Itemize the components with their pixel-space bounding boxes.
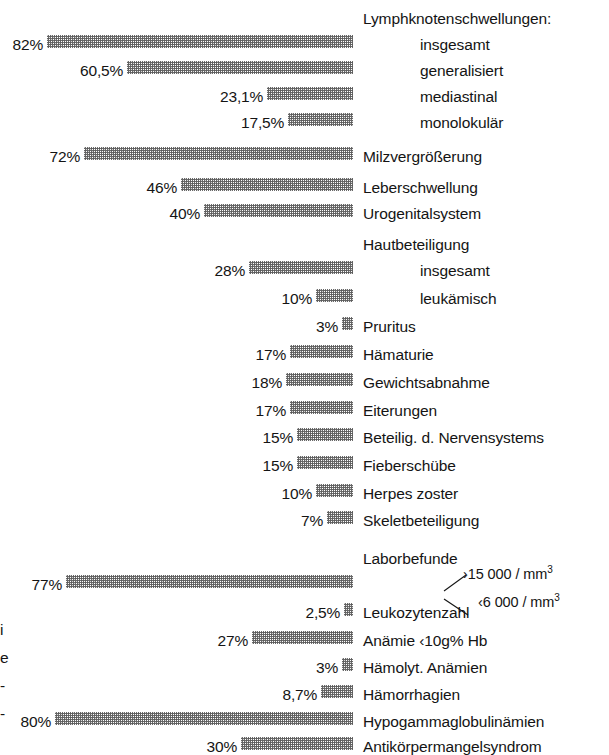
group-heading-label: Hautbeteiligung (363, 237, 469, 253)
bar-value-label: 18% (252, 375, 282, 391)
bar-value-label: 17% (256, 347, 286, 363)
chart-bar-row: 27%Anämie ‹10g% Hb (0, 627, 609, 653)
bar-value-label: 60,5% (80, 63, 123, 79)
chart-bar-row: 60,5%generalisiert (0, 57, 609, 83)
bar-value-label-wrap: 72% (0, 146, 80, 164)
category-label: Anämie ‹10g% Hb (363, 633, 487, 649)
bar (316, 484, 353, 497)
bar-value-label-wrap: 17% (0, 400, 286, 418)
bar (342, 317, 353, 330)
bar-value-label: 2,5% (305, 605, 340, 621)
category-label: monolokulär (420, 115, 503, 131)
category-label: Hämorrhagien (363, 687, 460, 703)
bar (288, 113, 353, 126)
bar-value-label-wrap: 80% (0, 711, 51, 729)
bar-value-label-wrap: 10% (0, 288, 312, 306)
bar-value-label-wrap: 18% (0, 372, 282, 390)
bar (321, 685, 353, 698)
bar (241, 737, 353, 750)
category-label: generalisiert (420, 63, 503, 79)
chart-bar-row: 10%leukämisch (0, 285, 609, 311)
bar-value-label-wrap: 3% (0, 316, 338, 334)
bar (286, 373, 353, 386)
bar-value-label-wrap: 77% (0, 574, 62, 592)
bar (249, 261, 353, 274)
chart-bar-row: 3%Pruritus (0, 313, 609, 339)
category-label: Beteilig. d. Nervensystems (363, 430, 544, 446)
bar-value-label: 46% (147, 180, 177, 196)
bar-value-label-wrap: 30% (0, 736, 237, 754)
chart-group-heading: Hautbeteiligung (0, 231, 609, 257)
bar-value-label: 10% (282, 291, 312, 307)
chart-bar-row: 3%Hämolyt. Anämien (0, 654, 609, 680)
bar-value-label: 8,7% (282, 687, 317, 703)
bar-value-label-wrap: 17% (0, 344, 286, 362)
bar (342, 658, 353, 671)
bar-value-label-wrap: 60,5% (0, 60, 123, 78)
leukocyte-low-annotation: ‹6 000 / mm3 (478, 595, 560, 610)
bar-value-label-wrap: 8,7% (0, 684, 317, 702)
bar (55, 712, 353, 725)
bar (290, 345, 353, 358)
chart-bar-row: 30%Antikörpermangelsyndrom (0, 733, 609, 755)
margin-text-fragment: - (0, 706, 5, 722)
bar-value-label-wrap: 15% (0, 455, 293, 473)
category-label: Pruritus (363, 319, 416, 335)
bar-value-label: 3% (316, 660, 338, 676)
bar-value-label: 82% (13, 37, 43, 53)
chart-bar-row: 7%Skeletbeteiligung (0, 507, 609, 533)
bar-value-label: 17,5% (241, 115, 284, 131)
bar (297, 428, 353, 441)
bar-value-label: 27% (218, 633, 248, 649)
margin-text-fragment: e (0, 650, 9, 666)
chart-bar-row: 40%Urogenitalsystem (0, 200, 609, 226)
leukocyte-high-annotation-unit: / mm (515, 566, 547, 582)
chart-bar-row: 72%Milzvergrößerung (0, 143, 609, 169)
bar-value-label: 23,1% (220, 89, 263, 105)
category-label: Herpes zoster (363, 486, 458, 502)
bar (66, 575, 353, 588)
bar-value-label-wrap: 23,1% (0, 86, 263, 104)
bar-value-label-wrap: 82% (0, 34, 43, 52)
bar (344, 603, 353, 616)
leukocyte-low-annotation-exponent: 3 (554, 592, 559, 603)
category-label: leukämisch (420, 291, 497, 307)
bar-value-label: 77% (32, 577, 62, 593)
bar-value-label: 15% (263, 458, 293, 474)
group-heading-label: Laborbefunde (363, 551, 457, 567)
chart-bar-row: 15%Beteilig. d. Nervensystems (0, 424, 609, 450)
category-label: insgesamt (420, 37, 490, 53)
bar-value-label: 7% (301, 513, 323, 529)
bar-value-label: 3% (316, 319, 338, 335)
chart-bar-row: 18%Gewichtsabnahme (0, 369, 609, 395)
category-label: Eiterungen (363, 403, 437, 419)
chart-bar-row: 82%insgesamt (0, 31, 609, 57)
bar-value-label-wrap: 3% (0, 657, 338, 675)
chart-bar-row: 17%Hämaturie (0, 341, 609, 367)
bar-value-label: 15% (263, 430, 293, 446)
bar (204, 204, 353, 217)
category-label: Fieberschübe (363, 458, 456, 474)
category-label: mediastinal (420, 89, 497, 105)
leukocyte-low-annotation-number: 6 000 (483, 594, 519, 610)
bar (47, 35, 353, 48)
leukocyte-high-annotation-exponent: 3 (547, 564, 552, 575)
bar-value-label-wrap: 17,5% (0, 112, 284, 130)
bar (267, 87, 353, 100)
bar-value-label-wrap: 15% (0, 427, 293, 445)
leukocyte-high-annotation-number: 15 000 (468, 566, 512, 582)
bar (252, 631, 353, 644)
bar-value-label-wrap: 10% (0, 483, 312, 501)
bar-value-label: 80% (21, 714, 51, 730)
group-heading-label: Lymphknotenschwellungen: (363, 11, 551, 27)
chart-bar-row: 46%Leberschwellung (0, 174, 609, 200)
bar (297, 456, 353, 469)
bar-value-label: 28% (215, 263, 245, 279)
category-label: Skeletbeteiligung (363, 513, 479, 529)
margin-text-fragment: i (0, 622, 3, 638)
category-label: Leukozytenzahl (363, 605, 469, 621)
bar-value-label-wrap: 40% (0, 203, 200, 221)
chart-bar-row: 17,5%monolokulär (0, 109, 609, 135)
bar-value-label-wrap: 7% (0, 510, 323, 528)
category-label: Hämaturie (363, 347, 434, 363)
